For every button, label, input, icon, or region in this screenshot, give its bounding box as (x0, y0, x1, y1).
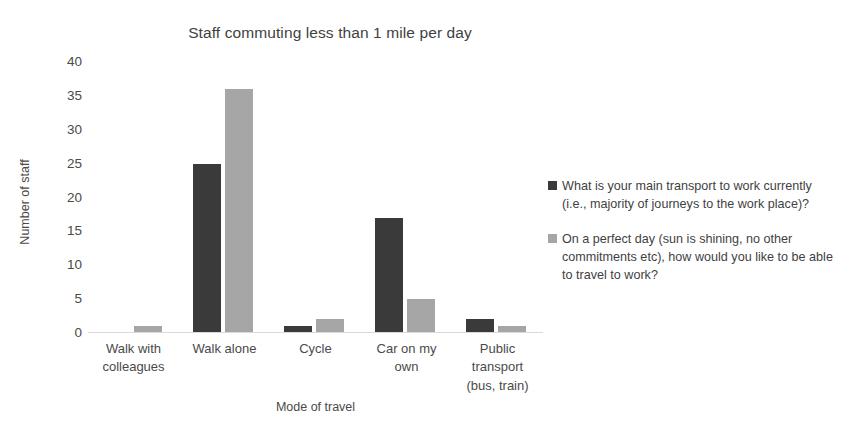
bar-chart: Staff commuting less than 1 mile per day… (0, 0, 846, 448)
bar (375, 218, 403, 333)
legend-swatch-icon (548, 181, 557, 190)
y-tick-label: 5 (54, 292, 82, 306)
x-axis-line (88, 332, 543, 333)
chart-title: Staff commuting less than 1 mile per day (120, 24, 540, 42)
x-tick-label: Publictransport(bus, train) (442, 340, 553, 395)
legend-entry[interactable]: What is your main transport to work curr… (548, 178, 836, 214)
x-tick-label-line: Public (442, 340, 553, 358)
y-axis-title: Number of staff (18, 147, 32, 257)
bar-group (452, 62, 543, 333)
y-tick-label: 25 (54, 157, 82, 171)
y-tick-label: 20 (54, 191, 82, 205)
bar (466, 319, 494, 333)
bar-group (361, 62, 452, 333)
y-axis-ticks: 0510152025303540 (52, 0, 82, 448)
bar (193, 164, 221, 333)
legend-label: What is your main transport to work curr… (562, 178, 836, 214)
bar (407, 299, 435, 333)
y-tick-label: 35 (54, 89, 82, 103)
bar (316, 319, 344, 333)
bar-group (179, 62, 270, 333)
y-tick-label: 15 (54, 225, 82, 239)
plot-area (88, 62, 543, 333)
y-tick-label: 0 (54, 326, 82, 340)
y-tick-label: 40 (54, 55, 82, 69)
x-axis-title: Mode of travel (88, 400, 543, 414)
bar-group (88, 62, 179, 333)
legend-entry[interactable]: On a perfect day (sun is shining, no oth… (548, 231, 836, 285)
y-tick-label: 30 (54, 123, 82, 137)
x-tick-label-line: transport (442, 358, 553, 376)
y-tick-label: 10 (54, 259, 82, 273)
x-tick-label-line: colleagues (78, 358, 189, 376)
legend-label: On a perfect day (sun is shining, no oth… (562, 231, 836, 285)
x-tick-label-line: (bus, train) (442, 377, 553, 395)
bar-group (270, 62, 361, 333)
bar (225, 89, 253, 333)
legend-swatch-icon (548, 234, 557, 243)
chart-legend: What is your main transport to work curr… (548, 178, 836, 301)
